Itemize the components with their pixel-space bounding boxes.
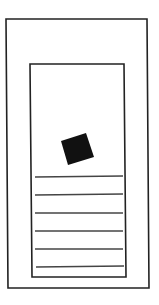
inner-page-frame	[30, 64, 126, 277]
text-line	[36, 266, 124, 267]
text-line	[35, 176, 123, 177]
document-diagram	[0, 0, 159, 305]
text-lines-group	[35, 176, 124, 267]
image-placeholder-icon	[61, 133, 94, 165]
text-line	[35, 194, 123, 195]
